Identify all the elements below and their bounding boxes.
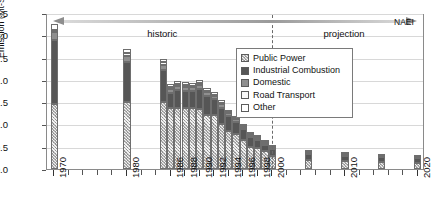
bar-segment — [211, 99, 218, 115]
bar-segment — [378, 154, 385, 156]
arrow-head-left-icon — [53, 17, 64, 25]
bar-segment — [261, 145, 268, 151]
gridline — [47, 103, 423, 104]
bar-segment — [196, 83, 203, 85]
legend-item-label: Domestic — [253, 78, 291, 87]
bar-segment — [123, 56, 130, 62]
bar-segment — [51, 40, 58, 105]
bar — [196, 80, 203, 169]
x-tick-label: 2010 — [348, 157, 359, 178]
bar-segment — [182, 87, 189, 91]
x-tick-label: 1992 — [217, 157, 228, 178]
bar-segment — [305, 160, 312, 169]
legend-swatch-icon — [241, 54, 249, 62]
x-tick-mark — [417, 170, 418, 176]
bar-segment — [247, 132, 254, 134]
historic-arrow-label: historic — [53, 28, 271, 39]
bar-segment — [196, 85, 203, 89]
bar-segment — [174, 90, 181, 108]
x-tick-mark — [53, 170, 54, 176]
bar-segment — [240, 124, 247, 126]
x-tick-mark — [330, 170, 331, 175]
gridline — [47, 14, 423, 15]
bar-segment — [203, 88, 210, 91]
x-tick-mark — [111, 170, 112, 175]
bar-segment — [203, 90, 210, 92]
legend-item[interactable]: Other — [241, 102, 347, 114]
bar-segment — [123, 49, 130, 53]
arrow-shaft — [271, 20, 405, 23]
bar-segment — [123, 53, 130, 56]
bar-segment — [261, 140, 268, 142]
legend-swatch-icon — [241, 79, 249, 87]
gridline — [47, 81, 423, 82]
bar-segment — [203, 92, 210, 96]
bar-segment — [240, 129, 247, 140]
bar-segment — [160, 102, 167, 169]
x-tick-label: 1986 — [174, 157, 185, 178]
bar-segment — [247, 135, 254, 137]
bar-segment — [196, 89, 203, 109]
bar — [174, 81, 181, 169]
bar-segment — [225, 110, 232, 112]
x-tick-mark — [82, 170, 83, 175]
legend-item-label: Road Transport — [253, 91, 315, 100]
bar-segment — [174, 86, 181, 90]
bar-segment — [225, 113, 232, 116]
bar-segment — [203, 96, 210, 115]
legend-item[interactable]: Domestic — [241, 77, 347, 89]
bar-segment — [225, 116, 232, 131]
bar-segment — [211, 92, 218, 95]
bar-segment — [218, 104, 225, 107]
y-tick-label: 2.5 — [0, 54, 8, 63]
x-tick-mark — [315, 170, 316, 175]
bar-segment — [254, 135, 261, 137]
x-tick-mark — [373, 170, 374, 175]
bar-segment — [167, 93, 174, 107]
bar — [378, 155, 385, 169]
arrow-shaft — [64, 20, 271, 23]
legend-item[interactable]: Public Power — [241, 52, 347, 64]
bar-segment — [305, 154, 312, 160]
bar-segment — [182, 82, 189, 85]
bar-segment — [160, 70, 167, 102]
y-tick-label: 2.0 — [0, 76, 8, 85]
bar-segment — [189, 87, 196, 91]
projection-arrow-label: projection — [271, 28, 416, 39]
x-tick-mark — [170, 170, 171, 176]
bar-segment — [232, 119, 239, 122]
x-tick-mark — [388, 170, 389, 175]
x-tick-label: 2020 — [421, 157, 432, 178]
bar-segment — [123, 62, 130, 102]
bar — [160, 59, 167, 169]
bar-segment — [261, 143, 268, 145]
x-tick-mark — [155, 170, 156, 175]
legend-item[interactable]: Road Transport — [241, 89, 347, 101]
x-tick-label: 1970 — [57, 157, 68, 178]
x-tick-label: 1996 — [246, 157, 257, 178]
x-tick-label: 1988 — [188, 157, 199, 178]
bar-segment — [174, 81, 181, 84]
bar-segment — [167, 84, 174, 87]
gridline — [47, 59, 423, 60]
bar-segment — [189, 85, 196, 87]
bar-segment — [378, 162, 385, 169]
x-tick-mark — [344, 170, 345, 176]
bar-segment — [211, 96, 218, 99]
bar-segment — [247, 137, 254, 147]
x-tick-mark — [286, 170, 287, 175]
bar-segment — [232, 122, 239, 134]
x-tick-label: 1990 — [203, 157, 214, 178]
legend-item-label: Public Power — [253, 54, 306, 63]
legend-item-label: Industrial Combustion — [253, 66, 340, 75]
x-tick-mark — [300, 170, 301, 175]
legend-swatch-icon — [241, 67, 249, 75]
legend-item[interactable]: Industrial Combustion — [241, 64, 347, 76]
x-tick-mark — [126, 170, 127, 176]
y-tick-label: 1.5 — [0, 98, 8, 107]
legend: Public PowerIndustrial CombustionDomesti… — [236, 48, 353, 118]
bar-segment — [218, 108, 225, 124]
bar-segment — [160, 65, 167, 70]
x-tick-mark — [402, 170, 403, 175]
bar-segment — [182, 91, 189, 108]
